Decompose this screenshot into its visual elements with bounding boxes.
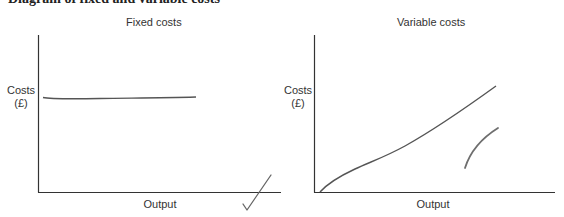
charts-canvas [0, 0, 564, 217]
variable-costs-line [320, 86, 496, 192]
fixed-costs-axes [38, 35, 281, 193]
tick-stroke-icon [465, 128, 498, 168]
variable-costs-axes [314, 35, 555, 193]
fixed-costs-line [43, 97, 196, 99]
